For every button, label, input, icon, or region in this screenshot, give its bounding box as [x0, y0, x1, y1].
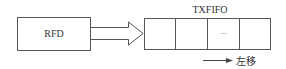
transfer-arrow-icon	[91, 22, 144, 45]
txfifo-title: TXFIFO	[190, 4, 230, 15]
txfifo-ellipsis: ...	[208, 26, 239, 36]
rfd-label: RFD	[17, 28, 91, 39]
shift-left-label: 左移	[236, 53, 256, 68]
shift-arrow-head-icon	[226, 58, 233, 63]
